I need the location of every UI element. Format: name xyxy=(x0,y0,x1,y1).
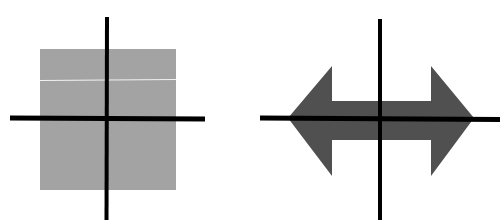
left-panel xyxy=(10,17,205,220)
figure xyxy=(0,0,504,222)
horizontal-axis xyxy=(260,118,500,120)
right-panel xyxy=(260,19,500,220)
horizontal-axis xyxy=(10,118,205,119)
